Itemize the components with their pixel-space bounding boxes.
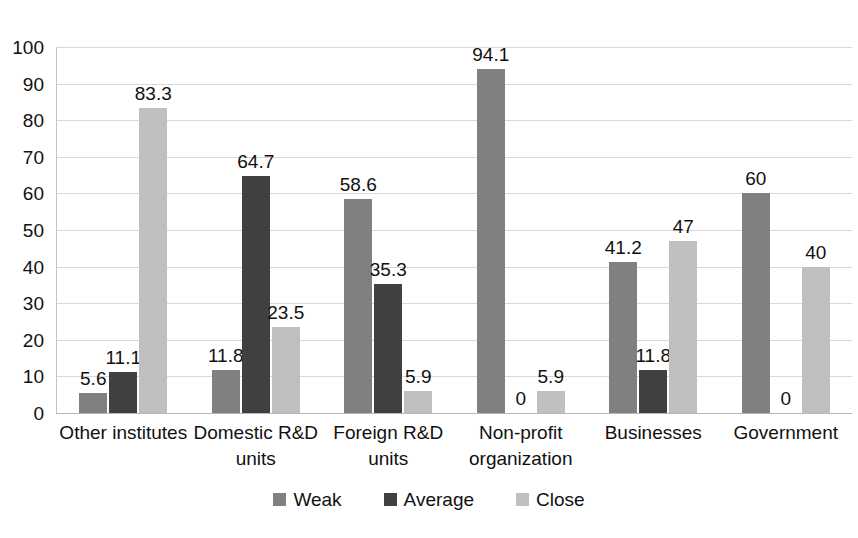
bar[interactable] bbox=[802, 267, 830, 413]
bar-value-label: 5.6 bbox=[80, 369, 106, 388]
bar-value-label: 11.1 bbox=[105, 348, 141, 367]
bar-value-label: 94.1 bbox=[472, 45, 509, 64]
bar[interactable] bbox=[477, 69, 505, 413]
y-axis-tick-label: 50 bbox=[23, 221, 44, 240]
bar-slot: 5.6 bbox=[79, 47, 107, 413]
bar-group: 5.611.183.3 bbox=[57, 47, 190, 413]
x-axis-tick-label-line: Non-profit bbox=[455, 420, 588, 446]
bar-slot: 83.3 bbox=[139, 47, 167, 413]
x-axis-tick-label-line: units bbox=[322, 446, 455, 472]
bar-slot: 35.3 bbox=[374, 47, 402, 413]
bar[interactable] bbox=[404, 391, 432, 413]
x-axis-tick-label-line: Domestic R&D bbox=[190, 420, 323, 446]
bar[interactable] bbox=[639, 370, 667, 413]
legend-swatch-icon bbox=[516, 493, 529, 506]
bar-group: 58.635.35.9 bbox=[322, 47, 455, 413]
x-axis-tick-label: Other institutes bbox=[57, 420, 190, 446]
legend-swatch-icon bbox=[273, 493, 286, 506]
legend-item[interactable]: Average bbox=[384, 490, 474, 509]
y-axis-tick-label: 0 bbox=[33, 404, 44, 423]
y-axis-tick-label: 90 bbox=[23, 74, 44, 93]
legend-label: Average bbox=[404, 490, 474, 509]
x-axis-tick-label: Non-profitorganization bbox=[455, 420, 588, 472]
legend-label: Close bbox=[536, 490, 585, 509]
bar[interactable] bbox=[742, 193, 770, 413]
bar-value-label: 41.2 bbox=[605, 238, 642, 257]
bar-slot: 0 bbox=[507, 47, 535, 413]
legend-swatch-icon bbox=[384, 493, 397, 506]
x-axis-baseline bbox=[57, 413, 852, 414]
bar[interactable] bbox=[272, 327, 300, 413]
y-axis-tick-label: 30 bbox=[23, 294, 44, 313]
y-axis-tick-label: 10 bbox=[23, 367, 44, 386]
bar-slot: 94.1 bbox=[477, 47, 505, 413]
bar[interactable] bbox=[344, 199, 372, 413]
bar-value-label: 11.8 bbox=[208, 346, 244, 365]
bar-value-label: 35.3 bbox=[370, 260, 407, 279]
bar[interactable] bbox=[79, 393, 107, 413]
bar[interactable] bbox=[669, 241, 697, 413]
bar-value-label: 11.8 bbox=[635, 346, 671, 365]
bar-group: 60040 bbox=[720, 47, 853, 413]
y-axis-tick-label: 40 bbox=[23, 257, 44, 276]
legend-label: Weak bbox=[293, 490, 341, 509]
bar-value-label: 5.9 bbox=[405, 367, 431, 386]
bar-value-label: 40 bbox=[805, 243, 826, 262]
x-axis-tick-label-line: organization bbox=[455, 446, 588, 472]
x-axis-tick-label: Domestic R&Dunits bbox=[190, 420, 323, 472]
bar[interactable] bbox=[537, 391, 565, 413]
bar-group: 11.864.723.5 bbox=[190, 47, 323, 413]
x-axis-tick-label-line: Government bbox=[720, 420, 853, 446]
bar-slot: 23.5 bbox=[272, 47, 300, 413]
plot-area: 5.611.183.311.864.723.558.635.35.994.105… bbox=[57, 47, 852, 413]
x-axis-tick-label-line: Other institutes bbox=[57, 420, 190, 446]
bar-slot: 64.7 bbox=[242, 47, 270, 413]
y-axis-tick-label: 70 bbox=[23, 147, 44, 166]
bar-value-label: 23.5 bbox=[267, 303, 304, 322]
bar-slot: 58.6 bbox=[344, 47, 372, 413]
x-axis-tick-label: Foreign R&Dunits bbox=[322, 420, 455, 472]
bar-slot: 11.8 bbox=[639, 47, 667, 413]
bar-slot: 0 bbox=[772, 47, 800, 413]
bar-slot: 47 bbox=[669, 47, 697, 413]
x-axis-tick-label: Businesses bbox=[587, 420, 720, 446]
bar-group: 41.211.847 bbox=[587, 47, 720, 413]
bar-value-label: 0 bbox=[515, 389, 526, 408]
chart-legend: WeakAverageClose bbox=[0, 490, 858, 509]
bar[interactable] bbox=[609, 262, 637, 413]
x-axis-tick-label-line: units bbox=[190, 446, 323, 472]
x-axis-tick-label: Government bbox=[720, 420, 853, 446]
bar[interactable] bbox=[109, 372, 137, 413]
x-axis-tick-label-line: Businesses bbox=[587, 420, 720, 446]
bar-value-label: 5.9 bbox=[538, 367, 564, 386]
bar-value-label: 58.6 bbox=[340, 175, 377, 194]
bar[interactable] bbox=[374, 284, 402, 413]
bar-value-label: 83.3 bbox=[135, 84, 172, 103]
bar-slot: 5.9 bbox=[537, 47, 565, 413]
y-axis: 1009080706050403020100 bbox=[0, 47, 50, 413]
legend-item[interactable]: Weak bbox=[273, 490, 341, 509]
bar-chart: 1009080706050403020100 5.611.183.311.864… bbox=[0, 0, 858, 538]
x-axis-category-labels: Other institutesDomestic R&DunitsForeign… bbox=[57, 420, 852, 478]
y-axis-tick-label: 60 bbox=[23, 184, 44, 203]
bar-slot: 40 bbox=[802, 47, 830, 413]
y-axis-tick-label: 20 bbox=[23, 330, 44, 349]
bar[interactable] bbox=[212, 370, 240, 413]
bar-slot: 41.2 bbox=[609, 47, 637, 413]
bar-group: 94.105.9 bbox=[455, 47, 588, 413]
bar-slot: 11.1 bbox=[109, 47, 137, 413]
bar-value-label: 60 bbox=[745, 169, 766, 188]
y-axis-tick-label: 80 bbox=[23, 111, 44, 130]
y-axis-tick-label: 100 bbox=[12, 38, 44, 57]
bar[interactable] bbox=[242, 176, 270, 413]
bar-value-label: 47 bbox=[673, 217, 694, 236]
bar-value-label: 64.7 bbox=[237, 152, 274, 171]
bar-slot: 5.9 bbox=[404, 47, 432, 413]
legend-item[interactable]: Close bbox=[516, 490, 585, 509]
bar-value-label: 0 bbox=[780, 389, 791, 408]
bar[interactable] bbox=[139, 108, 167, 413]
x-axis-tick-label-line: Foreign R&D bbox=[322, 420, 455, 446]
bar-slot: 11.8 bbox=[212, 47, 240, 413]
bar-slot: 60 bbox=[742, 47, 770, 413]
